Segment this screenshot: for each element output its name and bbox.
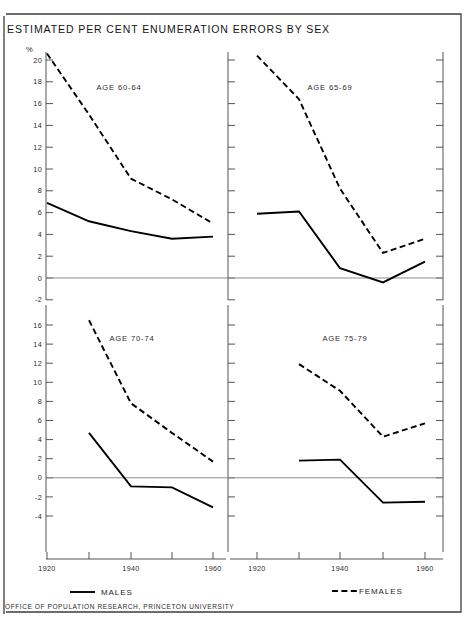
males-line-age-70-74 [89, 433, 213, 508]
xtick-label-1960-right: 1960 [416, 564, 433, 573]
ytick-label-4: 4 [38, 230, 42, 239]
ytick-label-b-0: 0 [38, 473, 42, 482]
ytick-label-b-2: 2 [38, 454, 42, 463]
xtick-label-1940-left: 1940 [122, 564, 139, 573]
ytick-label-2: 2 [38, 252, 42, 261]
panel-label-age-70-74: AGE 70-74 [109, 334, 154, 343]
ytick-label-b-14: 14 [33, 340, 42, 349]
ytick-label-18: 18 [33, 77, 42, 86]
ytick-label-20: 20 [33, 56, 42, 65]
xtick-label-1920-right: 1920 [248, 564, 265, 573]
ytick-label-b-10: 10 [33, 378, 42, 387]
ytick-label-b-12: 12 [33, 359, 42, 368]
ytick-label-8: 8 [38, 186, 42, 195]
panel-label-age-60-64: AGE 60-64 [96, 83, 141, 92]
xtick-label-1960-left: 1960 [204, 564, 221, 573]
males-line-age-60-64 [47, 203, 213, 239]
ytick-label-b-minus2: -2 [35, 493, 42, 502]
ytick-label-b-6: 6 [38, 416, 42, 425]
ytick-label-12: 12 [33, 143, 42, 152]
percent-axis-symbol: % [26, 45, 33, 54]
panel-age-60-64: 20 18 16 14 12 10 8 6 4 2 0 -2 AGE 60-64 [33, 52, 228, 304]
ytick-label-16: 16 [33, 99, 42, 108]
figure-container: ESTIMATED PER CENT ENUMERATION ERRORS BY… [0, 0, 467, 619]
panel-age-70-74: 16 14 12 10 8 6 4 2 0 -2 -4 AGE 70-74 [33, 305, 228, 552]
panel-age-65-69: AGE 65-69 [228, 52, 443, 300]
ytick-label-14: 14 [33, 121, 42, 130]
legend: MALES FEMALES [70, 587, 403, 597]
ytick-label-b-8: 8 [38, 397, 42, 406]
ytick-label-minus2: -2 [35, 295, 42, 304]
ytick-label-b-16: 16 [33, 321, 42, 330]
xtick-label-1940-right: 1940 [331, 564, 348, 573]
ytick-label-6: 6 [38, 208, 42, 217]
legend-males-label: MALES [101, 588, 133, 597]
chart-title: ESTIMATED PER CENT ENUMERATION ERRORS BY… [7, 23, 330, 35]
ytick-label-10: 10 [33, 165, 42, 174]
panel-label-age-75-79: AGE 75-79 [322, 334, 367, 343]
panel-label-age-65-69: AGE 65-69 [307, 83, 352, 92]
females-line-age-75-79 [299, 364, 425, 437]
ytick-label-b-minus4: -4 [35, 512, 42, 521]
males-line-age-75-79 [299, 460, 425, 503]
legend-females-label: FEMALES [359, 587, 403, 596]
chart-svg: ESTIMATED PER CENT ENUMERATION ERRORS BY… [0, 0, 467, 619]
x-axis-group: 1920 1940 1960 1920 1940 1960 [38, 552, 443, 573]
ytick-label-0: 0 [38, 274, 42, 283]
ytick-label-b-4: 4 [38, 435, 42, 444]
source-credit: OFFICE OF POPULATION RESEARCH, PRINCETON… [5, 603, 234, 610]
xtick-label-1920-left: 1920 [38, 564, 55, 573]
panel-age-75-79: AGE 75-79 [228, 305, 443, 552]
females-line-age-60-64 [47, 54, 213, 224]
